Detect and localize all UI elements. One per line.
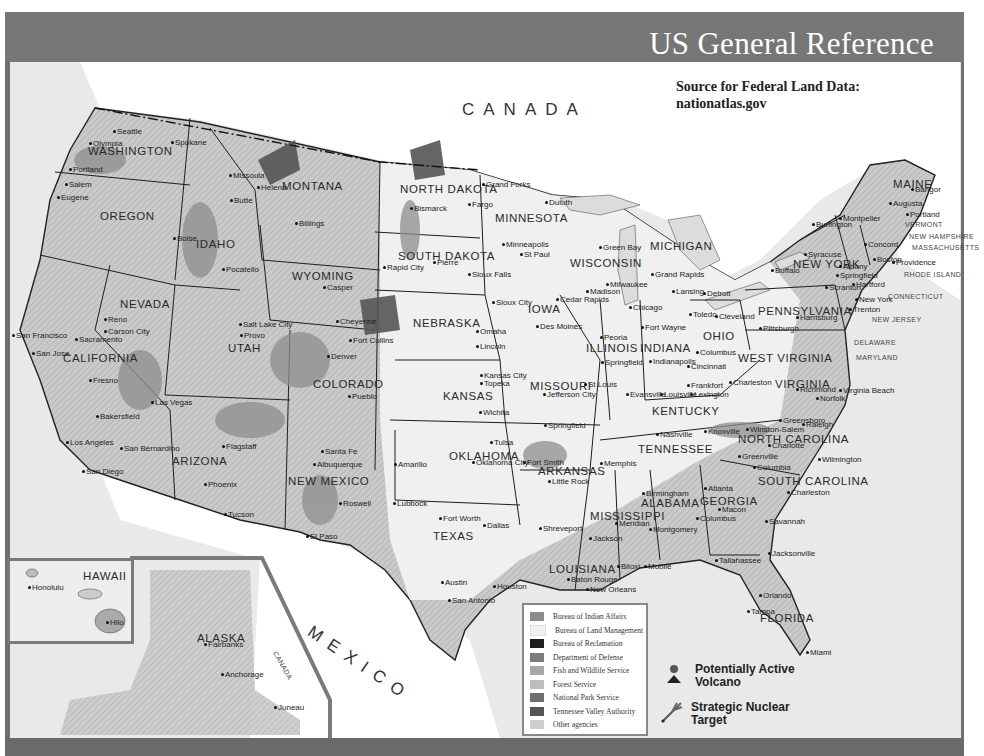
city-dot — [687, 365, 690, 368]
city-dot — [839, 265, 842, 268]
city-label: Fresno — [93, 376, 118, 385]
city-label: Cleveland — [719, 312, 755, 321]
state-label: MINNESOTA — [495, 212, 568, 224]
city-label: Green Bay — [603, 243, 641, 252]
city-label: Flagstaff — [226, 442, 257, 451]
city-label: Scranton — [829, 283, 861, 292]
city-label: Charleston — [733, 378, 772, 387]
city-dot — [65, 183, 68, 186]
city-dot — [323, 286, 326, 289]
city-label: Jacksonville — [772, 549, 815, 558]
city-label: Houston — [497, 582, 527, 591]
city-label: Wilmington — [822, 455, 862, 464]
legend-volcano: Potentially Active Volcano — [667, 663, 795, 689]
legend-label: Bureau of Reclamation — [553, 639, 623, 648]
city-label: Portland — [73, 165, 103, 174]
city-label: Trenton — [853, 305, 880, 314]
city-dot — [656, 433, 659, 436]
city-label: Roswell — [343, 499, 371, 508]
city-dot — [615, 522, 618, 525]
city-dot — [704, 487, 707, 490]
city-label: Frankfort — [691, 381, 723, 390]
city-dot — [796, 316, 799, 319]
city-dot — [433, 261, 436, 264]
city-dot — [804, 253, 807, 256]
legend-swatch — [530, 653, 544, 662]
city-label: Providence — [896, 258, 936, 267]
state-label: LOUISIANA — [549, 563, 616, 575]
city-dot — [327, 355, 330, 358]
city-label: Baton Rouge — [571, 575, 618, 584]
city-dot — [855, 298, 858, 301]
city-dot — [439, 517, 442, 520]
city-label: Columbus — [700, 348, 736, 357]
city-dot — [479, 411, 482, 414]
legend-item: Bureau of Reclamation — [530, 637, 642, 651]
city-dot — [502, 243, 505, 246]
city-dot — [718, 508, 721, 511]
state-label: NEW MEXICO — [288, 475, 369, 487]
city-label: Cheyenne — [340, 317, 376, 326]
city-dot — [482, 183, 485, 186]
city-dot — [336, 320, 339, 323]
city-label: Honolulu — [32, 583, 64, 592]
city-label: Meridian — [619, 519, 650, 528]
city-dot — [906, 213, 909, 216]
city-dot — [911, 188, 914, 191]
city-dot — [629, 306, 632, 309]
city-label: Bakersfield — [100, 412, 140, 421]
city-dot — [543, 393, 546, 396]
city-label: Lansing — [676, 287, 704, 296]
city-dot — [221, 673, 224, 676]
city-dot — [768, 444, 771, 447]
legend-item: Fish and Wildlife Service — [530, 664, 642, 678]
state-label: TENNESSEE — [638, 443, 713, 455]
city-dot — [759, 594, 762, 597]
state-label: WEST VIRGINIA — [738, 352, 833, 364]
city-dot — [589, 537, 592, 540]
city-dot — [274, 706, 277, 709]
state-label: NEBRASKA — [413, 317, 480, 329]
city-dot — [306, 535, 309, 538]
city-label: San Bernardino — [124, 444, 180, 453]
city-label: Louisville — [664, 390, 697, 399]
legend-item: Bureau of Indian Affairs — [530, 610, 642, 624]
legend-swatch — [530, 612, 544, 621]
city-label: St Paul — [524, 250, 550, 259]
city-label: Fort Worth — [443, 514, 481, 523]
city-label: Sacramento — [79, 335, 122, 344]
state-label: WYOMING — [292, 270, 354, 282]
city-label: Cincinnati — [691, 362, 726, 371]
city-label: Virginia Beach — [843, 386, 894, 395]
city-dot — [802, 423, 805, 426]
city-dot — [224, 513, 227, 516]
city-dot — [696, 517, 699, 520]
city-label: Lincoln — [480, 342, 505, 351]
missile-target-icon — [661, 701, 683, 727]
city-label: Norfolk — [820, 394, 845, 403]
city-label: Winston-Salem — [750, 425, 804, 434]
city-label: New Orleans — [590, 585, 636, 594]
city-label: Columbus — [700, 514, 736, 523]
city-dot — [779, 419, 782, 422]
state-label: RHODE ISLAND — [904, 271, 961, 278]
city-dot — [66, 441, 69, 444]
federal-lands-legend: Bureau of Indian AffairsBureau of Land M… — [522, 603, 648, 736]
city-dot — [746, 428, 749, 431]
city-dot — [536, 325, 539, 328]
city-label: Grand Rapids — [655, 270, 704, 279]
city-label: Montgomery — [653, 525, 697, 534]
city-dot — [825, 286, 828, 289]
city-dot — [230, 199, 233, 202]
city-dot — [339, 502, 342, 505]
state-label: MICHIGAN — [650, 240, 712, 252]
city-dot — [57, 196, 60, 199]
city-label: Tallahassee — [719, 556, 761, 565]
city-label: St Louis — [588, 380, 617, 389]
city-label: Salem — [69, 180, 92, 189]
city-dot — [82, 470, 85, 473]
city-dot — [393, 502, 396, 505]
city-dot — [480, 374, 483, 377]
city-dot — [204, 483, 207, 486]
legend-item: Other agencies — [530, 718, 642, 732]
